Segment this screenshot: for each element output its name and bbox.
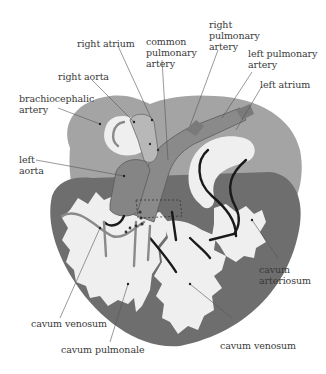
label-cavum-venosum-left: cavum venosum	[31, 318, 107, 329]
heart-diagram: right atrium common pulmonary artery rig…	[0, 0, 326, 374]
label-brachiocephalic-artery: brachiocephalic artery	[19, 93, 94, 115]
label-cavum-arteriosum: cavum arteriosum	[259, 264, 311, 286]
label-left-pulmonary-artery: left pulmonary artery	[248, 48, 317, 70]
label-cavum-pulmonale: cavum pulmonale	[61, 344, 144, 355]
label-right-atrium: right atrium	[77, 38, 135, 49]
label-left-atrium: left atrium	[260, 79, 310, 90]
label-common-pulmonary-artery: common pulmonary artery	[146, 36, 197, 69]
label-cavum-venosum-right: cavum venosum	[220, 340, 296, 351]
label-left-aorta: left aorta	[19, 154, 44, 176]
label-right-aorta: right aorta	[58, 71, 109, 82]
